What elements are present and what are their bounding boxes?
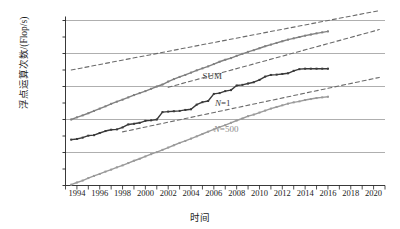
chart-figure: 浮点运算次数/(Flop/s) 时间 1 E100 P10 P1 P100 T1… xyxy=(0,0,400,229)
plot-canvas xyxy=(0,0,400,229)
